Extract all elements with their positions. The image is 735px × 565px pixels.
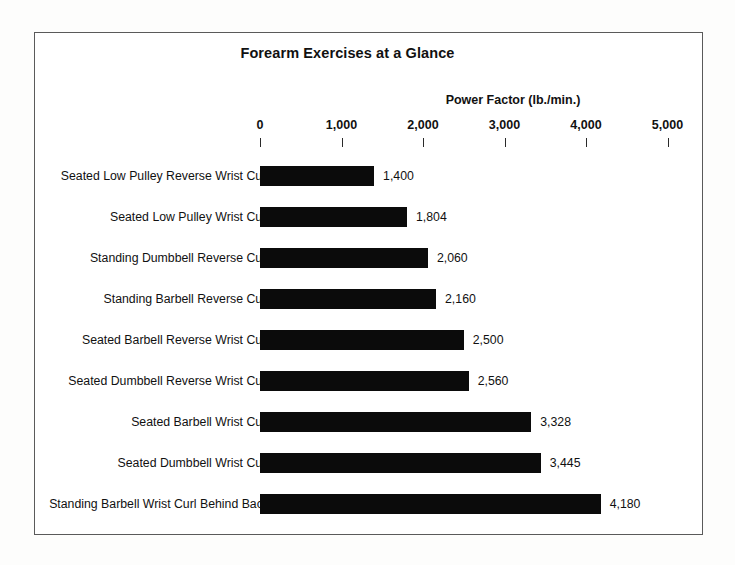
chart-row: Standing Barbell Reverse Curl2,160 bbox=[35, 289, 704, 309]
bar-value-label: 1,804 bbox=[416, 210, 447, 224]
bar-category-label: Seated Low Pulley Wrist Curl bbox=[110, 210, 269, 224]
bar-value-label: 2,160 bbox=[445, 292, 476, 306]
chart-row: Seated Dumbbell Wrist Curl3,445 bbox=[35, 453, 704, 473]
chart-row: Seated Low Pulley Reverse Wrist Curl1,40… bbox=[35, 166, 704, 186]
chart-row: Seated Barbell Wrist Curl3,328 bbox=[35, 412, 704, 432]
bar-category-label: Seated Barbell Reverse Wrist Curl bbox=[82, 333, 269, 347]
bar-category-label: Seated Low Pulley Reverse Wrist Curl bbox=[61, 169, 269, 183]
bar-category-label: Standing Barbell Wrist Curl Behind Back bbox=[49, 497, 269, 511]
bar-value-label: 2,500 bbox=[473, 333, 504, 347]
bar-value-label: 3,328 bbox=[540, 415, 571, 429]
x-axis-tick-label: 5,000 bbox=[652, 118, 683, 132]
x-axis-tick-label: 2,000 bbox=[407, 118, 438, 132]
plot-area: 01,0002,0003,0004,0005,000Seated Low Pul… bbox=[35, 33, 704, 536]
x-axis-tick-mark bbox=[586, 138, 587, 147]
bar bbox=[260, 371, 469, 391]
chart-row: Seated Dumbbell Reverse Wrist Curl2,560 bbox=[35, 371, 704, 391]
chart-row: Standing Dumbbell Reverse Curl2,060 bbox=[35, 248, 704, 268]
x-axis-tick-mark bbox=[505, 138, 506, 147]
bar-value-label: 2,560 bbox=[478, 374, 509, 388]
bar bbox=[260, 166, 374, 186]
bar bbox=[260, 330, 464, 350]
bar-value-label: 1,400 bbox=[383, 169, 414, 183]
bar bbox=[260, 412, 531, 432]
bar-value-label: 4,180 bbox=[610, 497, 641, 511]
bar-value-label: 3,445 bbox=[550, 456, 581, 470]
x-axis-tick-label: 3,000 bbox=[489, 118, 520, 132]
x-axis-tick-label: 4,000 bbox=[570, 118, 601, 132]
bar-category-label: Seated Dumbbell Wrist Curl bbox=[118, 456, 270, 470]
chart-row: Seated Low Pulley Wrist Curl1,804 bbox=[35, 207, 704, 227]
bar-category-label: Seated Barbell Wrist Curl bbox=[131, 415, 269, 429]
chart-row: Seated Barbell Reverse Wrist Curl2,500 bbox=[35, 330, 704, 350]
bar bbox=[260, 207, 407, 227]
chart-frame: Forearm Exercises at a Glance Power Fact… bbox=[34, 32, 703, 535]
x-axis-tick-label: 1,000 bbox=[326, 118, 357, 132]
bar-value-label: 2,060 bbox=[437, 251, 468, 265]
bar bbox=[260, 248, 428, 268]
bar-category-label: Seated Dumbbell Reverse Wrist Curl bbox=[68, 374, 269, 388]
chart-page: Forearm Exercises at a Glance Power Fact… bbox=[0, 0, 735, 565]
chart-row: Standing Barbell Wrist Curl Behind Back4… bbox=[35, 494, 704, 514]
bar bbox=[260, 494, 601, 514]
bar bbox=[260, 453, 541, 473]
x-axis-tick-label: 0 bbox=[257, 118, 264, 132]
x-axis-tick-mark bbox=[668, 138, 669, 147]
x-axis-tick-mark bbox=[342, 138, 343, 147]
bar-category-label: Standing Barbell Reverse Curl bbox=[104, 292, 269, 306]
x-axis-tick-mark bbox=[423, 138, 424, 147]
bar-category-label: Standing Dumbbell Reverse Curl bbox=[90, 251, 269, 265]
bar bbox=[260, 289, 436, 309]
x-axis-tick-mark bbox=[260, 138, 261, 147]
